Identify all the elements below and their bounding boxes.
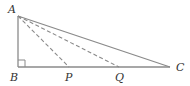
label-b: B [9,71,18,84]
segment-ap-dashed [18,16,69,67]
label-p: P [64,71,73,84]
triangle-diagram: A B P Q C [0,0,190,86]
label-a: A [7,3,16,16]
segment-ac [18,16,170,67]
segment-aq-dashed [18,16,119,67]
label-q: Q [115,71,124,84]
right-angle-marker [18,60,25,67]
label-c: C [176,61,185,74]
